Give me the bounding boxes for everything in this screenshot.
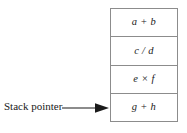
stack-cell-label: e × f [133,74,154,85]
stack-cell-label: a + b [132,17,156,28]
stack-cell-third: e × f [111,66,177,94]
stack-cell-label: g + h [132,102,156,113]
stack-cell-label: c / d [134,46,154,57]
stack-pointer-annotation: Stack pointer [0,99,110,119]
arrow-right-icon [62,101,110,115]
diagram-canvas: a + b c / d e × f g + h Stack pointer [0,0,187,133]
stack-cell-top: a + b [111,9,177,37]
stack-container: a + b c / d e × f g + h [110,8,178,122]
stack-cell-bottom: g + h [111,94,177,121]
stack-cell-second: c / d [111,37,177,65]
stack-pointer-label: Stack pointer [4,99,62,113]
